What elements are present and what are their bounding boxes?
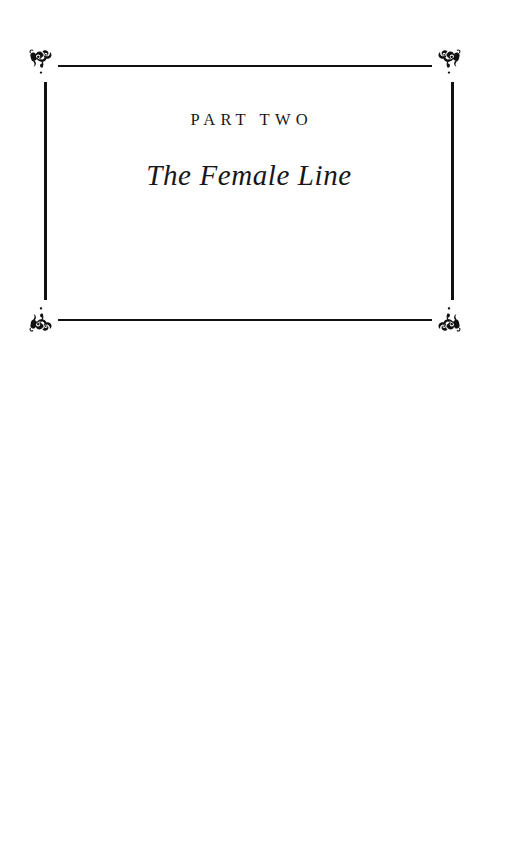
frame-top-rule xyxy=(58,65,432,67)
page-title: The Female Line xyxy=(46,129,452,190)
blank-lower-page-area xyxy=(0,350,510,851)
book-page: PART TWO The Female Line xyxy=(0,0,510,851)
floral-scrollwork-ornament-icon xyxy=(434,303,464,333)
part-title-block: PART TWO The Female Line xyxy=(46,112,452,190)
floral-scrollwork-ornament-icon xyxy=(26,303,56,333)
part-number-label: PART TWO xyxy=(46,112,452,129)
floral-scrollwork-ornament-icon xyxy=(26,48,56,78)
floral-scrollwork-ornament-icon xyxy=(434,48,464,78)
frame-bottom-rule xyxy=(58,319,432,321)
